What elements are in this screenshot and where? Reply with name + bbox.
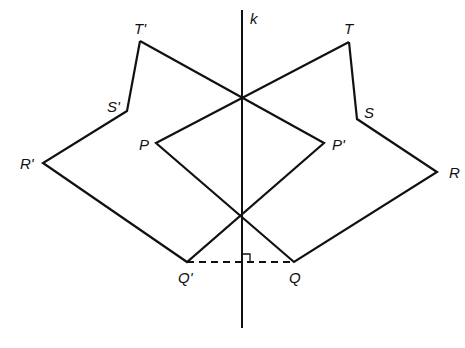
label-P-prime: P' bbox=[332, 137, 345, 152]
label-Q-prime: Q' bbox=[178, 270, 193, 285]
label-T: T bbox=[344, 21, 353, 36]
label-R-prime: R' bbox=[20, 156, 34, 171]
right-angle-marker bbox=[242, 254, 250, 262]
original-figure-PQRST bbox=[156, 42, 437, 262]
label-T-prime: T' bbox=[134, 21, 146, 36]
label-S: S bbox=[364, 105, 374, 120]
label-R: R bbox=[449, 165, 460, 180]
label-k: k bbox=[250, 11, 258, 26]
label-Q: Q bbox=[289, 270, 301, 285]
label-S-prime: S' bbox=[107, 99, 120, 114]
reflection-diagram bbox=[0, 0, 465, 348]
image-figure-PQRST-prime bbox=[43, 41, 324, 262]
label-P: P bbox=[139, 137, 149, 152]
